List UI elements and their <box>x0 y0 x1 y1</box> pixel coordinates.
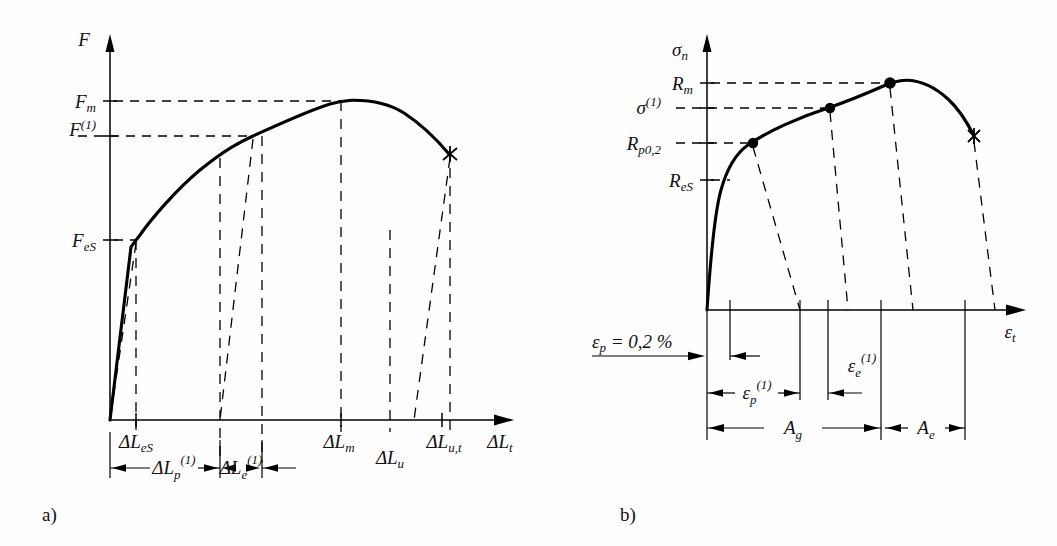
panel-b-point-rm <box>884 77 896 89</box>
panel-b-ylabel-rp02-sub: p0,2 <box>637 142 661 157</box>
panel-b-dimlabel-ag: Ag <box>782 417 803 442</box>
panel-b-dim-epse1 <box>828 389 862 397</box>
panel-b-x-axis-label-sub: t <box>1012 330 1016 345</box>
panel-a-xlabel-dlm-sub: m <box>345 440 354 455</box>
panel-a-unload-es <box>110 243 136 420</box>
panel-a-xlabel-dlut-sub: u,t <box>448 440 462 455</box>
panel-b-ylabel-rp02: Rp0,2 <box>626 133 662 157</box>
panel-b-unload-sigma1 <box>830 112 848 310</box>
panel-b-y-axis-label-sub: n <box>681 48 688 63</box>
panel-b-unload-rp02 <box>753 147 800 310</box>
panel-b-ylabel-res: ReS <box>668 170 693 194</box>
panel-b-x-axis <box>707 305 1026 316</box>
panel-b-point-sigma1 <box>825 103 835 113</box>
panel-a-y-axis <box>106 34 115 420</box>
panel-a-x-axis-label-sub: t <box>509 440 513 455</box>
panel-b-dimlabel-epse1: εe(1) <box>848 350 876 380</box>
panel-b-y-axis-label: σn <box>672 39 688 63</box>
panel-b-dimlabel-epsp1: εp(1) <box>742 377 771 407</box>
panel-a-xlabel-dlm: ΔLm <box>322 431 354 455</box>
panel-b-dimlabel-epsp1-sup: (1) <box>756 377 771 392</box>
panel-b-annotation-epsp: εp = 0,2 % <box>592 331 673 355</box>
panel-a-ylabel-fes: FeS <box>71 230 96 254</box>
panel-a-dimlabel-dlp1-sub: p <box>173 467 181 482</box>
panel-a-x-axis <box>110 415 514 426</box>
panel-b-x-axis-label: εt <box>1004 321 1016 345</box>
panel-b-dimlabel-ae: Ae <box>915 417 935 442</box>
panel-a-ylabel-fm-sub: m <box>87 100 96 115</box>
panel-b-ylabel-sigma1-sup: (1) <box>646 94 661 109</box>
panel-b-eps-p-leader <box>592 352 705 360</box>
panel-b-ylabel-rm-sub: m <box>684 82 693 97</box>
panel-a-dimlabel-dlp1-sup: (1) <box>181 452 196 467</box>
panel-a-caption: a) <box>42 504 57 526</box>
panel-a-xlabel-dles: ΔLeS <box>118 431 153 455</box>
panel-a-y-axis-label: F <box>77 29 90 50</box>
panel-b-caption: b) <box>620 504 636 526</box>
panel-a-x-axis-label: ΔLt <box>486 431 513 455</box>
panel-b-ylabel-sigma1: σ(1) <box>636 94 661 118</box>
panel-b-load-curve <box>707 80 974 310</box>
panel-a-group <box>78 34 514 478</box>
panel-a-xlabel-dlu-sub: u <box>398 456 405 471</box>
panel-a-ylabel-fm: Fm <box>74 91 96 115</box>
panel-b-dimlabel-epsp1-sub: p <box>749 392 757 407</box>
panel-a-ylabel-fes-sub: eS <box>84 239 97 254</box>
panel-a-xlabel-dlu: ΔLu <box>375 447 405 471</box>
panel-a-dimlabel-dlp1: ΔLp(1) <box>151 452 195 482</box>
panel-a-unload-f1 <box>220 139 253 420</box>
panel-b-dimlabel-ae-sub: e <box>929 427 935 442</box>
panel-a-xlabel-dlut: ΔLu,t <box>425 431 461 455</box>
panel-b-annotation-epsp-text: = 0,2 % <box>606 331 673 352</box>
panel-b-dimlabel-ag-sub: g <box>796 427 803 442</box>
figure-container: F Fm F(1) FeS ΔLeS ΔLm ΔLu ΔLu,t ΔLt ΔLp… <box>0 0 1057 546</box>
panel-a-ylabel-f1-sup: (1) <box>81 117 96 132</box>
figure-svg: F Fm F(1) FeS ΔLeS ΔLm ΔLu ΔLu,t ΔLt ΔLp… <box>0 0 1057 546</box>
panel-b-offset-arrow <box>730 352 760 360</box>
panel-a-unload-u <box>414 158 450 420</box>
panel-b-point-rp02 <box>748 138 758 148</box>
panel-b-unload-fracture <box>974 142 995 310</box>
panel-a-xlabel-dles-sub: eS <box>141 440 154 455</box>
panel-b-ylabel-rm: Rm <box>671 73 693 97</box>
panel-a-load-curve <box>110 100 449 420</box>
panel-b-dimlabel-epse1-sup: (1) <box>861 350 876 365</box>
panel-b-ylabel-res-sub: eS <box>681 179 694 194</box>
panel-b-unload-rm <box>890 88 913 310</box>
panel-a-dimlabel-dle1-sub: e <box>241 467 247 482</box>
panel-b-dimlabel-epse1-sub: e <box>855 365 861 380</box>
panel-a-dimlabel-dle1-sup: (1) <box>247 452 262 467</box>
